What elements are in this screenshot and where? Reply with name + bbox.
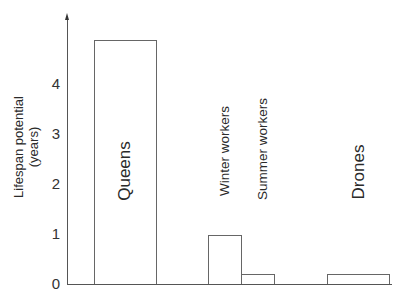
y-axis-label: Lifespan potential (years) (11, 96, 41, 198)
y-tick-4: 4 (46, 76, 60, 91)
y-tick-2: 2 (46, 176, 60, 191)
y-tick-1: 1 (46, 226, 60, 241)
bar-label-queens: Queens (115, 141, 135, 201)
y-axis-label-line1: Lifespan potential (11, 96, 26, 198)
y-axis-label-line2: (years) (26, 96, 41, 198)
y-axis-arrow-icon (65, 13, 69, 20)
bar-drones (327, 274, 390, 284)
y-tick-3: 3 (46, 126, 60, 141)
bar-label-summer-workers: Summer workers (255, 98, 270, 200)
bar-summer-workers (241, 274, 275, 284)
y-axis-line (67, 18, 68, 284)
bar-label-winter-workers: Winter workers (217, 106, 232, 196)
bar-label-drones: Drones (349, 145, 369, 200)
bar-chart: 0 1 2 3 4 Lifespan potential (years) Que… (0, 0, 407, 303)
y-tick-0: 0 (46, 276, 60, 291)
bar-winter-workers (208, 235, 242, 284)
